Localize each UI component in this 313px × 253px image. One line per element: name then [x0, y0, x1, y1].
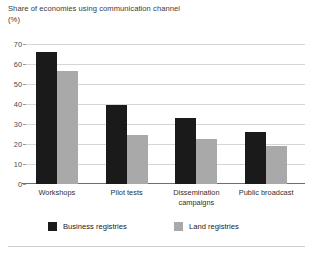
- plot-area: 010203040506070: [26, 44, 305, 184]
- legend-swatch: [48, 222, 57, 231]
- chart-figure: Share of economies using communication c…: [0, 0, 313, 253]
- legend-swatch: [174, 222, 183, 231]
- bar[interactable]: [196, 139, 217, 184]
- category-label: Pilot tests: [92, 188, 162, 198]
- category-label: Public broadcast: [231, 188, 301, 198]
- legend-label: Business registries: [63, 222, 127, 231]
- category-label-line: Pilot tests: [92, 188, 162, 198]
- footer-divider: [8, 246, 305, 247]
- bar[interactable]: [266, 146, 287, 184]
- category-label-line: Public broadcast: [231, 188, 301, 198]
- bar-group: [106, 44, 148, 184]
- y-axis-tick-label: 10: [14, 160, 22, 169]
- bar[interactable]: [245, 132, 266, 184]
- bar-group: [175, 44, 217, 184]
- category-label: Workshops: [22, 188, 92, 198]
- y-axis-tick-label: 40: [14, 100, 22, 109]
- chart-title-block: Share of economies using communication c…: [8, 4, 308, 25]
- legend-item[interactable]: Business registries: [48, 222, 127, 231]
- legend-item[interactable]: Land registries: [174, 222, 239, 231]
- category-label-line: Workshops: [22, 188, 92, 198]
- bar[interactable]: [36, 52, 57, 184]
- category-label: Disseminationcampaigns: [162, 188, 232, 207]
- chart-subtitle: (%): [8, 15, 308, 26]
- y-axis-tick-label: 30: [14, 120, 22, 129]
- y-axis-tick-label: 70: [14, 40, 22, 49]
- category-label-line: Dissemination: [162, 188, 232, 198]
- bar[interactable]: [127, 135, 148, 184]
- bar[interactable]: [106, 105, 127, 184]
- y-axis-tick-label: 20: [14, 140, 22, 149]
- category-axis-labels: WorkshopsPilot testsDisseminationcampaig…: [26, 188, 305, 214]
- y-axis-tick-mark: [23, 184, 26, 185]
- chart-legend: Business registriesLand registries: [26, 222, 305, 236]
- bar-group: [36, 44, 78, 184]
- chart-title: Share of economies using communication c…: [8, 4, 308, 15]
- bar[interactable]: [57, 71, 78, 184]
- legend-label: Land registries: [189, 222, 239, 231]
- bar[interactable]: [175, 118, 196, 184]
- bar-group: [245, 44, 287, 184]
- category-label-line: campaigns: [162, 198, 232, 208]
- y-axis-tick-label: 50: [14, 80, 22, 89]
- y-axis-tick-label: 60: [14, 60, 22, 69]
- bar-groups: [26, 44, 305, 184]
